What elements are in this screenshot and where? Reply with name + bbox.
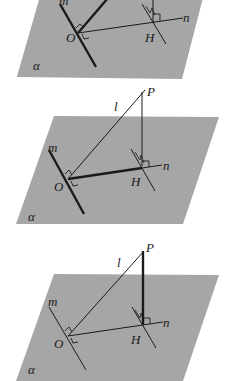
label-l: l [114, 99, 118, 114]
label-alpha: α [33, 58, 41, 73]
label-H: H [130, 174, 141, 189]
diagram-bottom: P l m n O H α [0, 230, 236, 381]
label-m: m [59, 0, 68, 8]
label-l: l [117, 255, 121, 270]
label-m: m [48, 140, 57, 155]
label-O: O [54, 336, 64, 351]
plane-alpha [16, 274, 219, 381]
label-H: H [130, 332, 141, 347]
label-O: O [66, 30, 76, 45]
label-n: n [163, 158, 170, 173]
diagram-top: m n O H α [0, 0, 236, 80]
label-n: n [183, 10, 190, 25]
label-alpha: α [28, 362, 36, 377]
label-m: m [48, 294, 57, 309]
diagram-middle: P l m n O H α [0, 80, 236, 230]
plane-alpha-fill [17, 0, 205, 79]
label-H: H [144, 30, 155, 45]
panel-top: m n O H α [0, 0, 236, 80]
label-n: n [163, 315, 170, 330]
label-O: O [54, 179, 64, 194]
label-alpha: α [28, 209, 36, 224]
plane-alpha [16, 116, 219, 224]
label-P: P [145, 240, 154, 255]
panel-middle: P l m n O H α [0, 80, 236, 230]
label-P: P [146, 84, 155, 99]
panel-bottom: P l m n O H α [0, 230, 236, 381]
